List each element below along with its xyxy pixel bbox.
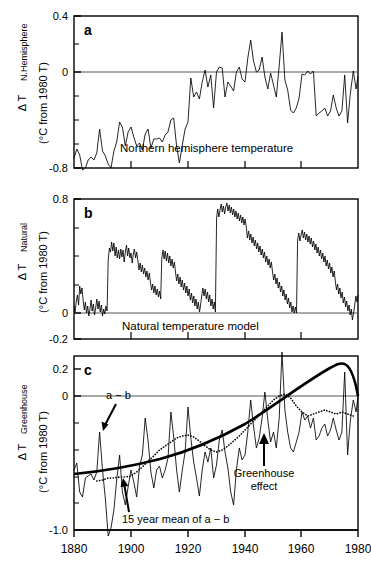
panel-c: Δ T Greenhouse (°C from 1980 T) 0.2 0 -1… <box>16 352 358 536</box>
panel-b-xticks <box>131 332 301 339</box>
panel-c-arrow-a-minus-b <box>102 404 117 431</box>
panel-c-arrow-15yr <box>121 478 130 512</box>
x-tick-label-1960: 1960 <box>288 542 315 556</box>
panel-c-annot-15yr: 15 year mean of a − b <box>122 513 229 525</box>
panel-a-ytick-0: 0 <box>62 66 68 78</box>
panel-c-annot-greenhouse-1: Greenhouse <box>234 467 295 479</box>
panel-b-ylabel-main: Δ T <box>16 263 28 280</box>
panel-a-ylabel: Δ T <box>16 94 28 111</box>
panel-a-ylabel-units: (°C from 1980 T) <box>37 62 49 144</box>
panel-c-ytick-0.2: 0.2 <box>53 363 68 375</box>
panel-c-arrow-greenhouse <box>259 433 269 466</box>
panel-c-letter: c <box>84 362 92 378</box>
panel-a-minor-yticks <box>74 44 79 144</box>
panel-a-ytick--0.8: -0.8 <box>49 162 68 174</box>
panel-c-ylabel-units: (°C from 1980 T) <box>37 411 49 493</box>
x-tick-label-1900: 1900 <box>118 542 145 556</box>
panel-a-inplot-label: Northern hemisphere temperature <box>120 142 293 154</box>
x-tick-label-1980: 1980 <box>345 542 371 556</box>
panel-c-ytick-0: 0 <box>62 390 68 402</box>
panel-a-letter: a <box>84 22 92 38</box>
panel-a-ylabel-sub: N.Hemisphere <box>19 23 29 81</box>
panel-b-ytick--0.2: -0.2 <box>49 333 68 345</box>
panel-c-ytick--1.0: -1.0 <box>49 524 68 536</box>
panel-b-ytick-0: 0 <box>62 307 68 319</box>
panel-a-major-yticks <box>74 16 81 168</box>
panel-a-xticks <box>131 161 301 168</box>
panel-a-ylabel-main: Δ T <box>16 94 28 111</box>
x-tick-label-1880: 1880 <box>61 542 88 556</box>
panel-c-annot-greenhouse-2: effect <box>251 480 278 492</box>
panel-c-series-15yr-mean <box>97 394 354 481</box>
panel-a-ytick-0.4: 0.4 <box>53 10 68 22</box>
figure-root: Δ T N.Hemisphere (°C from 1980 T) 0.4 0 … <box>0 0 371 573</box>
panel-b-ylabel-units: (°C from 1980 T) <box>37 231 49 313</box>
panel-b-major-yticks <box>74 199 81 339</box>
panel-c-annot-a-minus-b: a − b <box>106 389 131 401</box>
panel-b-minor-yticks <box>74 228 79 285</box>
x-axis: 1880 1900 1920 1940 1960 1980 <box>61 530 371 556</box>
panel-b-letter: b <box>84 205 93 221</box>
panel-c-ylabel-main: Δ T <box>16 443 28 460</box>
panel-b-series-natural <box>74 203 358 320</box>
panel-a: Δ T N.Hemisphere (°C from 1980 T) 0.4 0 … <box>16 10 358 174</box>
panel-c-ylabel-sub: Greenhouse <box>19 384 29 434</box>
x-tick-label-1920: 1920 <box>175 542 202 556</box>
panel-b: Δ T Natural (°C from 1980 T) 0.8 0 -0.2 … <box>16 193 358 345</box>
panel-c-ylabel: Δ T <box>16 443 28 460</box>
panel-b-ylabel-sub: Natural <box>19 223 29 252</box>
climate-figure-svg: Δ T N.Hemisphere (°C from 1980 T) 0.4 0 … <box>0 0 371 573</box>
panel-c-frame <box>74 356 358 530</box>
panel-b-ylabel: Δ T <box>16 263 28 280</box>
panel-b-ytick-0.8: 0.8 <box>53 193 68 205</box>
panel-b-inplot-label: Natural temperature model <box>122 320 259 332</box>
x-tick-label-1940: 1940 <box>232 542 259 556</box>
x-major-ticks <box>74 530 358 537</box>
